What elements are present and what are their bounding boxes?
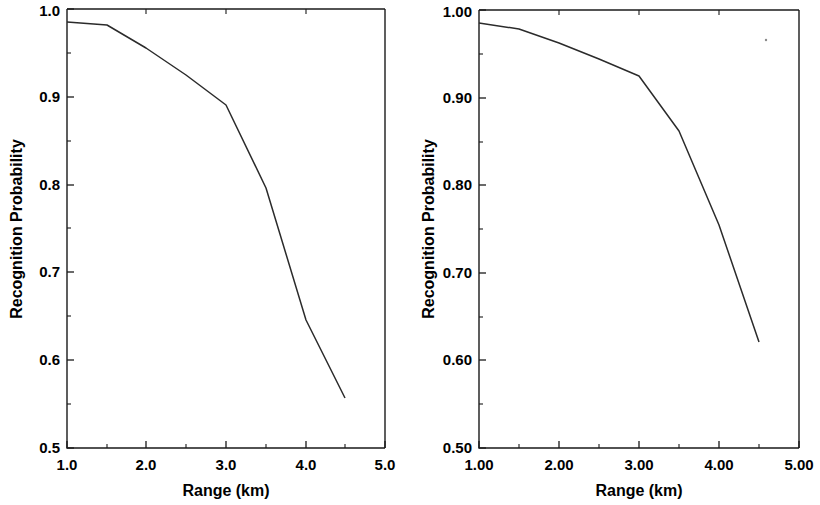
right-ytick-label-5: 1.00 bbox=[443, 3, 472, 20]
right-chart-svg: Recognition Probability bbox=[410, 0, 820, 505]
left-xtick-label-0: 1.0 bbox=[57, 456, 78, 473]
right-xtick-label-4: 5.00 bbox=[784, 456, 813, 473]
right-xtick-label-3: 4.00 bbox=[704, 456, 733, 473]
left-xtick-label-1: 2.0 bbox=[136, 456, 157, 473]
left-ytick-label-4: 0.9 bbox=[39, 88, 60, 105]
figure-two-panel-line-charts: Recognition Probability bbox=[0, 0, 820, 505]
right-ytick-label-1: 0.60 bbox=[443, 351, 472, 368]
left-xtick-label-2: 3.0 bbox=[216, 456, 237, 473]
left-ytick-label-0: 0.5 bbox=[39, 439, 60, 456]
right-ytick-label-4: 0.90 bbox=[443, 89, 472, 106]
left-xtick-label-3: 4.0 bbox=[296, 456, 317, 473]
left-x-axis-title: Range (km) bbox=[182, 482, 269, 499]
left-ytick-label-3: 0.8 bbox=[39, 176, 60, 193]
right-data-curve bbox=[479, 23, 759, 342]
chart-panel-left: Recognition Probability bbox=[0, 0, 410, 505]
right-xtick-label-0: 1.00 bbox=[464, 456, 493, 473]
right-y-axis-title: Recognition Probability bbox=[420, 139, 437, 319]
right-xtick-label-2: 3.00 bbox=[624, 456, 653, 473]
right-ytick-label-2: 0.70 bbox=[443, 264, 472, 281]
left-chart-svg: Recognition Probability bbox=[0, 0, 410, 505]
left-y-axis-title: Recognition Probability bbox=[8, 139, 25, 319]
left-ytick-label-5: 1.0 bbox=[39, 2, 60, 19]
right-x-axis-title: Range (km) bbox=[595, 482, 682, 499]
right-ytick-label-3: 0.80 bbox=[443, 176, 472, 193]
left-xtick-label-4: 5.0 bbox=[375, 456, 396, 473]
chart-panel-right: Recognition Probability bbox=[410, 0, 820, 505]
right-ytick-label-0: 0.50 bbox=[443, 439, 472, 456]
right-xtick-label-1: 2.00 bbox=[544, 456, 573, 473]
left-ytick-label-1: 0.6 bbox=[39, 351, 60, 368]
left-ytick-label-2: 0.7 bbox=[39, 263, 60, 280]
scan-speck bbox=[765, 39, 767, 41]
left-data-curve bbox=[67, 22, 345, 398]
